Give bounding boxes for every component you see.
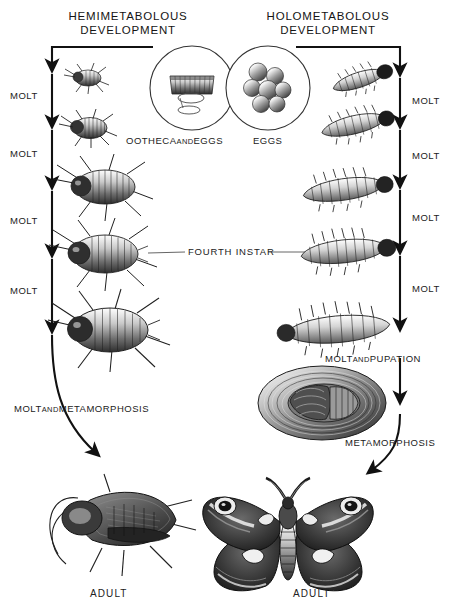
molt-metamorphosis-main: MOLT <box>14 403 42 414</box>
molt-metamorphosis-tail: METAMORPHOSIS <box>59 403 149 414</box>
ootheca-caption-and: AND <box>176 137 193 146</box>
second-instar-nymph-illustration <box>59 109 117 148</box>
right-adult-label: ADULT <box>293 588 331 599</box>
pupation-tail: PUPATION <box>370 353 421 364</box>
ootheca-caption-main: OOTHECA <box>126 135 176 146</box>
pupation-main: MOLT <box>325 353 353 364</box>
fourth-instar-label: FOURTH INSTAR <box>188 246 275 257</box>
ootheca-circle-illustration <box>150 46 234 130</box>
ootheca-caption: OOTHECAANDEGGS <box>126 135 223 146</box>
cocoon-pupa-illustration <box>258 366 386 440</box>
pupation-and: AND <box>353 355 370 364</box>
eggs-caption: EGGS <box>253 135 282 146</box>
third-instar-nymph-illustration <box>53 154 153 221</box>
left-molt-label-1: MOLT <box>10 90 38 101</box>
molt-and-pupation-label: MOLTANDPUPATION <box>325 353 421 364</box>
ootheca-caption-tail: EGGS <box>194 135 223 146</box>
right-molt-label-1: MOLT <box>412 95 440 106</box>
metamorphosis-diagram: HEMIMETABOLOUS DEVELOPMENT HOLOMETABOLOU… <box>0 0 452 610</box>
fourth-instar-larva-illustration <box>300 225 397 277</box>
left-molt-label-3: MOLT <box>10 215 38 226</box>
left-molt-label-4: MOLT <box>10 285 38 296</box>
second-instar-larva-illustration <box>318 100 397 148</box>
adult-cockroach-illustration <box>50 474 196 576</box>
diagram-artwork <box>0 0 452 610</box>
adult-moth-illustration <box>203 478 373 591</box>
right-column-title: HOLOMETABOLOUS DEVELOPMENT <box>238 10 418 37</box>
fifth-instar-larva-illustration <box>276 299 391 359</box>
metamorphosis-label: METAMORPHOSIS <box>345 437 435 448</box>
left-adult-label: ADULT <box>90 588 128 599</box>
left-column-title: HEMIMETABOLOUS DEVELOPMENT <box>38 10 218 37</box>
first-instar-nymph-illustration <box>64 63 109 94</box>
right-molt-label-3: MOLT <box>412 212 440 223</box>
eggs-circle-illustration <box>226 46 310 130</box>
fifth-instar-nymph-illustration <box>48 289 170 372</box>
right-molt-label-2: MOLT <box>412 150 440 161</box>
third-instar-larva-illustration <box>301 164 395 215</box>
first-instar-larva-illustration <box>329 56 397 101</box>
left-molt-label-2: MOLT <box>10 148 38 159</box>
fourth-instar-nymph-illustration <box>49 218 157 291</box>
right-molt-label-4: MOLT <box>412 283 440 294</box>
molt-metamorphosis-and: AND <box>42 405 59 414</box>
molt-and-metamorphosis-label: MOLTANDMETAMORPHOSIS <box>14 403 149 414</box>
